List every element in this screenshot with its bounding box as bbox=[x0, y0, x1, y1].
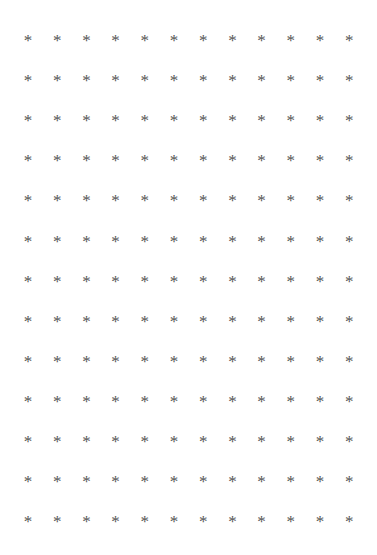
asterisk-icon: * bbox=[250, 109, 274, 133]
asterisk-icon: * bbox=[162, 510, 186, 534]
asterisk-icon: * bbox=[16, 230, 40, 254]
asterisk-icon: * bbox=[279, 470, 303, 494]
asterisk-icon: * bbox=[337, 470, 361, 494]
asterisk-icon: * bbox=[133, 230, 157, 254]
asterisk-icon: * bbox=[191, 470, 215, 494]
asterisk-icon: * bbox=[133, 69, 157, 93]
asterisk-icon: * bbox=[337, 29, 361, 53]
asterisk-icon: * bbox=[16, 69, 40, 93]
asterisk-icon: * bbox=[220, 270, 244, 294]
asterisk-icon: * bbox=[250, 149, 274, 173]
asterisk-icon: * bbox=[133, 510, 157, 534]
asterisk-icon: * bbox=[162, 310, 186, 334]
asterisk-icon: * bbox=[74, 390, 98, 414]
asterisk-icon: * bbox=[133, 310, 157, 334]
asterisk-icon: * bbox=[74, 189, 98, 213]
asterisk-icon: * bbox=[250, 390, 274, 414]
asterisk-icon: * bbox=[220, 510, 244, 534]
asterisk-icon: * bbox=[220, 350, 244, 374]
asterisk-icon: * bbox=[337, 149, 361, 173]
asterisk-icon: * bbox=[16, 270, 40, 294]
asterisk-icon: * bbox=[133, 270, 157, 294]
asterisk-icon: * bbox=[162, 390, 186, 414]
asterisk-icon: * bbox=[16, 390, 40, 414]
asterisk-icon: * bbox=[337, 350, 361, 374]
asterisk-icon: * bbox=[250, 69, 274, 93]
asterisk-icon: * bbox=[45, 470, 69, 494]
asterisk-icon: * bbox=[16, 149, 40, 173]
asterisk-icon: * bbox=[250, 270, 274, 294]
asterisk-icon: * bbox=[74, 510, 98, 534]
asterisk-grid-canvas: ****************************************… bbox=[0, 0, 377, 555]
asterisk-icon: * bbox=[45, 270, 69, 294]
asterisk-icon: * bbox=[45, 189, 69, 213]
asterisk-icon: * bbox=[308, 189, 332, 213]
asterisk-icon: * bbox=[337, 189, 361, 213]
asterisk-icon: * bbox=[133, 350, 157, 374]
asterisk-icon: * bbox=[191, 350, 215, 374]
asterisk-icon: * bbox=[162, 270, 186, 294]
asterisk-icon: * bbox=[279, 230, 303, 254]
asterisk-icon: * bbox=[308, 310, 332, 334]
asterisk-icon: * bbox=[104, 69, 128, 93]
asterisk-icon: * bbox=[162, 109, 186, 133]
asterisk-icon: * bbox=[45, 109, 69, 133]
asterisk-icon: * bbox=[16, 430, 40, 454]
asterisk-icon: * bbox=[74, 310, 98, 334]
asterisk-icon: * bbox=[104, 310, 128, 334]
asterisk-icon: * bbox=[308, 230, 332, 254]
asterisk-icon: * bbox=[191, 149, 215, 173]
asterisk-icon: * bbox=[45, 149, 69, 173]
asterisk-icon: * bbox=[308, 470, 332, 494]
asterisk-icon: * bbox=[133, 29, 157, 53]
asterisk-icon: * bbox=[220, 390, 244, 414]
asterisk-icon: * bbox=[45, 69, 69, 93]
asterisk-icon: * bbox=[162, 230, 186, 254]
asterisk-icon: * bbox=[250, 230, 274, 254]
asterisk-icon: * bbox=[337, 69, 361, 93]
asterisk-icon: * bbox=[162, 470, 186, 494]
asterisk-icon: * bbox=[191, 390, 215, 414]
asterisk-icon: * bbox=[250, 430, 274, 454]
asterisk-icon: * bbox=[220, 149, 244, 173]
asterisk-icon: * bbox=[191, 230, 215, 254]
asterisk-icon: * bbox=[279, 430, 303, 454]
asterisk-icon: * bbox=[104, 29, 128, 53]
asterisk-icon: * bbox=[220, 310, 244, 334]
asterisk-icon: * bbox=[279, 149, 303, 173]
asterisk-icon: * bbox=[133, 390, 157, 414]
asterisk-icon: * bbox=[104, 149, 128, 173]
asterisk-icon: * bbox=[16, 189, 40, 213]
asterisk-icon: * bbox=[308, 69, 332, 93]
asterisk-icon: * bbox=[337, 310, 361, 334]
asterisk-icon: * bbox=[162, 69, 186, 93]
asterisk-icon: * bbox=[220, 470, 244, 494]
asterisk-icon: * bbox=[133, 430, 157, 454]
asterisk-icon: * bbox=[104, 109, 128, 133]
asterisk-icon: * bbox=[250, 29, 274, 53]
asterisk-icon: * bbox=[279, 310, 303, 334]
asterisk-icon: * bbox=[308, 109, 332, 133]
asterisk-icon: * bbox=[16, 310, 40, 334]
asterisk-icon: * bbox=[74, 470, 98, 494]
asterisk-icon: * bbox=[191, 310, 215, 334]
asterisk-icon: * bbox=[308, 430, 332, 454]
asterisk-icon: * bbox=[191, 270, 215, 294]
asterisk-icon: * bbox=[308, 510, 332, 534]
asterisk-icon: * bbox=[104, 189, 128, 213]
asterisk-icon: * bbox=[74, 29, 98, 53]
asterisk-icon: * bbox=[308, 270, 332, 294]
asterisk-icon: * bbox=[191, 510, 215, 534]
asterisk-icon: * bbox=[162, 29, 186, 53]
asterisk-icon: * bbox=[45, 310, 69, 334]
asterisk-icon: * bbox=[16, 350, 40, 374]
asterisk-icon: * bbox=[220, 430, 244, 454]
asterisk-icon: * bbox=[337, 390, 361, 414]
asterisk-icon: * bbox=[74, 350, 98, 374]
asterisk-icon: * bbox=[191, 29, 215, 53]
asterisk-icon: * bbox=[45, 390, 69, 414]
asterisk-icon: * bbox=[337, 430, 361, 454]
asterisk-icon: * bbox=[337, 230, 361, 254]
asterisk-icon: * bbox=[279, 29, 303, 53]
asterisk-icon: * bbox=[16, 470, 40, 494]
